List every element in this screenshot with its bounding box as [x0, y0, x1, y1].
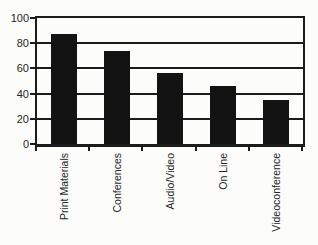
bar — [210, 86, 236, 144]
y-axis-tick-label: 40 — [2, 87, 29, 101]
x-axis-category-label: Audio/Video — [164, 153, 176, 209]
bar — [104, 51, 130, 144]
y-axis-tick — [30, 67, 35, 69]
x-axis-tick — [35, 147, 37, 151]
y-axis-tick — [30, 93, 35, 95]
y-axis-tick-label: 100 — [2, 11, 29, 25]
x-axis-tick — [195, 147, 197, 151]
x-axis-category-label: Print Materials — [58, 153, 70, 220]
bar — [263, 100, 289, 144]
y-axis-tick — [30, 42, 35, 44]
x-axis-tick — [88, 147, 90, 151]
plot-area — [35, 16, 305, 147]
y-axis-tick — [30, 17, 35, 19]
x-axis-tick — [301, 147, 303, 151]
x-axis-tick — [141, 147, 143, 151]
gridline — [37, 42, 303, 44]
y-axis-tick — [30, 118, 35, 120]
bar-chart-figure: 020406080100Print MaterialsConferencesAu… — [0, 0, 318, 245]
y-axis-tick-label: 80 — [2, 36, 29, 50]
gridline — [37, 67, 303, 69]
y-axis-tick-label: 20 — [2, 112, 29, 126]
bar — [51, 34, 77, 144]
y-axis-tick-label: 0 — [2, 137, 29, 151]
y-axis-tick — [30, 143, 35, 145]
x-axis-tick — [248, 147, 250, 151]
x-axis-category-label: On Line — [217, 153, 229, 190]
bar — [157, 73, 183, 144]
x-axis-category-label: Conferences — [111, 153, 123, 213]
y-axis-tick-label: 60 — [2, 61, 29, 75]
x-axis-category-label: Videoconference — [270, 153, 282, 232]
